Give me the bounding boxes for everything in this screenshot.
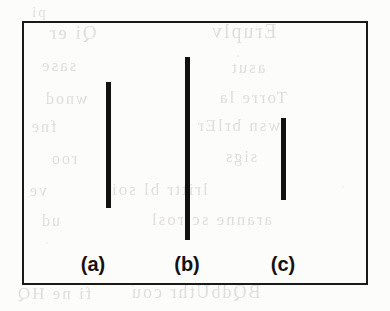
bar-label-b: (b): [174, 254, 200, 274]
bleed-through-text: fi ne HQ: [16, 284, 91, 304]
scanned-page-background: piQi erEruplvsaseasutwnodTorre lafnewsn …: [0, 0, 390, 311]
bar-label-c: (c): [271, 254, 295, 274]
bar-c: [281, 118, 286, 200]
figure-frame: (a)(b)(c): [22, 21, 368, 285]
bleed-through-text: BQdbUthr cou: [130, 282, 261, 303]
bleed-through-text: pi: [30, 4, 46, 21]
bar-b: [185, 57, 190, 240]
bar-a: [106, 82, 111, 208]
bar-label-a: (a): [81, 254, 105, 274]
